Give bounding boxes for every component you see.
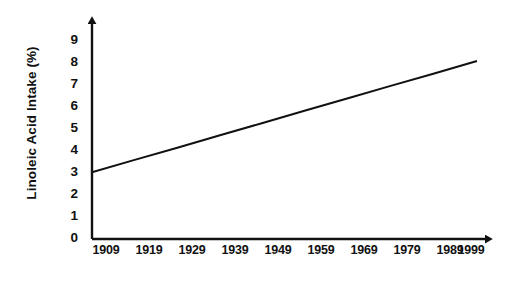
data-series-line [92, 61, 476, 172]
chart-container: Linoleic Acid Intake (%) 0 1 2 3 4 5 6 7… [0, 0, 518, 307]
plot-area [0, 0, 518, 307]
